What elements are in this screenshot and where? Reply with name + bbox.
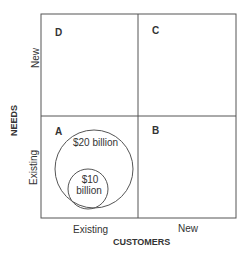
quadrant-d-label: D bbox=[55, 27, 62, 38]
quadrant-b-label: B bbox=[152, 125, 159, 136]
x-axis-title: CUSTOMERS bbox=[113, 237, 170, 247]
small-circle-value-line1: $10 bbox=[80, 174, 100, 185]
large-circle-value: $20 billion bbox=[73, 137, 118, 148]
small-circle-value-line2: billion bbox=[73, 185, 105, 196]
quadrant-grid bbox=[0, 0, 249, 256]
quadrant-c-label: C bbox=[152, 25, 159, 36]
y-tick-existing: Existing bbox=[28, 150, 39, 185]
x-tick-existing: Existing bbox=[73, 224, 108, 235]
x-tick-new: New bbox=[178, 223, 198, 234]
quadrant-a-label: A bbox=[55, 126, 62, 137]
y-tick-new: New bbox=[30, 48, 41, 68]
y-axis-title: NEEDS bbox=[9, 105, 19, 136]
